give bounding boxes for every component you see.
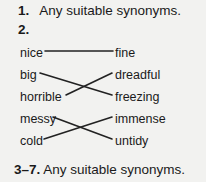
answer-key-page: 1.Any suitable synonyms. 2. nice big hor…: [0, 0, 206, 182]
match-right-word-dreadful: dreadful: [115, 69, 160, 82]
match-right-word-untidy: untidy: [115, 135, 148, 148]
answer-item-2: 2.: [18, 23, 29, 37]
answer-item-3-7: 3–7.Any suitable synonyms.: [14, 163, 185, 177]
connection-horrible-dreadful: [66, 73, 112, 95]
match-right-word-freezing: freezing: [115, 91, 159, 104]
matching-exercise: nice big horrible messy cold fine dreadf…: [0, 44, 206, 160]
match-right-word-fine: fine: [115, 47, 135, 60]
answer-item-1: 1.Any suitable synonyms.: [18, 4, 181, 18]
match-left-word-big: big: [20, 69, 37, 82]
answer-item-3-7-text: Any suitable synonyms.: [43, 162, 185, 177]
match-left-word-cold: cold: [20, 135, 43, 148]
match-left-word-horrible: horrible: [20, 91, 62, 104]
match-left-word-nice: nice: [20, 47, 43, 60]
answer-item-1-text: Any suitable synonyms.: [39, 3, 181, 18]
answer-item-2-number: 2.: [18, 22, 29, 37]
match-left-word-messy: messy: [20, 113, 56, 126]
answer-item-3-7-number: 3–7.: [14, 162, 40, 177]
answer-item-1-number: 1.: [18, 3, 29, 18]
match-right-word-immense: immense: [115, 113, 166, 126]
